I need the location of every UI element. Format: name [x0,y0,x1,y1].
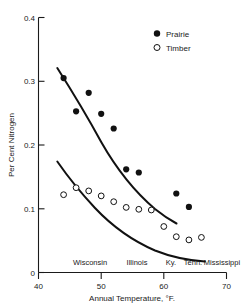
chart-legend: Prairie Timber [154,30,191,53]
legend-marker-prairie [154,30,160,36]
data-point [86,90,92,96]
y-tick-label-0.3: 0.3 [24,77,36,86]
data-point [161,224,167,230]
data-point [98,111,104,117]
y-tick-label-0.4: 0.4 [24,14,36,23]
chart-figure: 0.4 0.3 0.2 0.1 0 40 50 60 70 Annual Tem… [0,0,247,308]
data-point [111,199,117,205]
region-label-wisconsin: Wisconsin [73,258,107,267]
scatter-plot: 0.4 0.3 0.2 0.1 0 40 50 60 70 Annual Tem… [0,0,247,308]
data-point [123,205,129,211]
y-tick-label-0: 0 [31,269,36,278]
data-point [136,169,142,175]
x-tick-labels: 40 50 60 70 [34,282,231,291]
legend-label-timber: Timber [166,44,191,53]
legend-marker-timber [154,45,160,51]
region-label-illinois: Illinois [127,258,148,267]
x-tick-label-70: 70 [222,282,231,291]
legend-label-prairie: Prairie [166,30,190,39]
y-axis-title: Per Cent Nitrogen [7,113,16,177]
data-point [61,75,67,81]
x-tick-label-50: 50 [97,282,106,291]
data-point [173,234,179,240]
data-point [111,125,117,131]
region-annotations: Wisconsin Illinois Ky. Tenn. Mississippi [73,258,241,267]
series-prairie-points [61,75,192,210]
data-point [186,204,192,210]
data-point [98,193,104,199]
y-tick-label-0.2: 0.2 [24,141,36,150]
y-tick-marks [39,18,45,273]
data-point [199,235,205,241]
data-point [123,166,129,172]
x-axis-title: Annual Temperature, °F. [89,294,175,303]
timber-fit-curve [57,162,205,262]
region-label-ky: Ky. [166,258,176,267]
x-tick-marks [39,273,227,280]
axes-frame [39,18,227,273]
y-tick-labels: 0.4 0.3 0.2 0.1 0 [24,14,36,278]
prairie-fit-curve [57,68,176,224]
data-point [136,206,142,212]
data-point [73,185,79,191]
data-point [61,192,67,198]
x-tick-label-60: 60 [159,282,168,291]
data-point [186,237,192,243]
y-tick-label-0.1: 0.1 [24,205,36,214]
data-point [73,108,79,114]
data-point [86,188,92,194]
fit-curves [57,68,205,262]
data-point [148,207,154,213]
region-label-mississippi: Mississippi [204,258,241,267]
data-point [173,190,179,196]
x-tick-label-40: 40 [34,282,43,291]
